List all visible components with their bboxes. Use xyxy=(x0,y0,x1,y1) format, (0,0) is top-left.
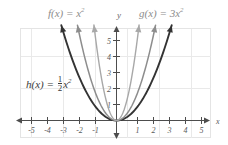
x-tick-label: 5 xyxy=(200,126,204,135)
curve-label-f: f(x) = x2 xyxy=(48,8,84,19)
curve-label-h-prefix: h(x) = xyxy=(26,78,57,90)
y-tick-label: 3 xyxy=(106,69,111,78)
fraction-one-half: 12 xyxy=(58,75,63,93)
y-tick-label: 5 xyxy=(107,37,111,46)
x-axis-title: x xyxy=(215,117,220,126)
curve-label-f-exponent: 2 xyxy=(81,6,84,13)
x-tick-label: -5 xyxy=(28,126,35,135)
curve-label-h: h(x) = 12x2 xyxy=(26,76,71,94)
curve-label-g-exponent: 2 xyxy=(180,6,183,13)
x-tick-label: -2 xyxy=(76,126,83,135)
curve-label-g-text: g(x) = 3x xyxy=(139,7,180,19)
fraction-denominator: 2 xyxy=(58,83,63,93)
curve-label-h-exponent: 2 xyxy=(68,77,71,84)
graph-figure: -5 -4 -3 -2 -1 1 2 3 4 5 1 2 3 4 5 x f(x… xyxy=(0,0,228,145)
x-axis-arrow-left xyxy=(16,118,22,124)
curve-label-f-text: f(x) = x xyxy=(48,7,81,19)
fraction-numerator: 1 xyxy=(58,75,63,83)
y-tick-label: 2 xyxy=(107,85,111,94)
y-tick-label: 4 xyxy=(107,53,111,62)
x-tick-label: -4 xyxy=(44,126,51,135)
x-tick-label: -1 xyxy=(92,126,99,135)
x-tick-label: 3 xyxy=(167,126,172,135)
x-tick-label: 1 xyxy=(136,126,140,135)
coordinate-plane: -5 -4 -3 -2 -1 1 2 3 4 5 1 2 3 4 5 x xyxy=(0,0,228,145)
x-tick-label: 2 xyxy=(152,126,156,135)
x-tick-label: -3 xyxy=(60,126,67,135)
curve-label-g: g(x) = 3x2 xyxy=(139,8,183,19)
x-tick-label: 4 xyxy=(184,126,188,135)
y-axis-title: y xyxy=(117,11,121,20)
